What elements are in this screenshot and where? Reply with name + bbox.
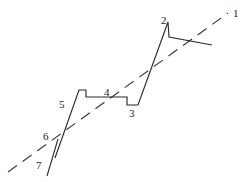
trend-dashed-line	[8, 13, 228, 172]
point-label-5: 5	[59, 99, 65, 110]
point-label-2: 2	[161, 15, 167, 26]
point-label-4: 4	[104, 87, 110, 98]
staircase-polyline	[55, 22, 212, 158]
figure-canvas: 1 2 3 4 5 6 7	[0, 0, 246, 182]
point-label-7: 7	[36, 160, 42, 171]
lower-tick-mark	[47, 139, 58, 176]
point-label-6: 6	[43, 131, 49, 142]
diagram-svg	[0, 0, 246, 182]
point-label-1: 1	[233, 8, 239, 19]
point-label-3: 3	[129, 108, 135, 119]
